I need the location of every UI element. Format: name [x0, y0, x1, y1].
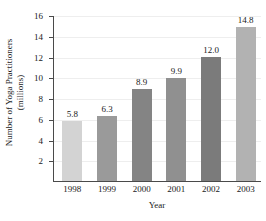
gridline — [54, 120, 261, 121]
bar: 14.8 — [236, 27, 256, 181]
bar: 12.0 — [201, 57, 221, 182]
y-axis-tick-label: 8 — [39, 94, 44, 104]
x-axis-tick-label: 2003 — [237, 184, 255, 194]
y-axis-tick — [49, 16, 53, 17]
y-axis-title-line2: (millions) — [15, 39, 26, 147]
bar-value-label: 12.0 — [203, 45, 219, 55]
y-axis-tick-label: 10 — [34, 73, 43, 83]
y-axis-tick-label: 4 — [39, 136, 44, 146]
gridline — [54, 37, 261, 38]
y-axis-tick-label: 16 — [34, 11, 43, 21]
y-axis-tick-label: 12 — [34, 53, 43, 63]
bar: 9.9 — [166, 78, 186, 181]
plot-area: 246810121416 5.86.38.99.912.014.8 199819… — [53, 16, 261, 182]
gridline — [54, 99, 261, 100]
y-axis-tick — [49, 120, 53, 121]
y-axis-tick — [49, 58, 53, 59]
gridline — [54, 161, 261, 162]
bar: 6.3 — [97, 116, 117, 181]
y-axis-title-line1: Number of Yoga Practitioners — [5, 39, 16, 147]
x-axis-tick-label: 2001 — [167, 184, 185, 194]
y-axis-tick-label: 6 — [39, 115, 44, 125]
gridline — [54, 78, 261, 79]
x-axis-line — [53, 181, 261, 182]
y-axis-title: Number of Yoga Practitioners (millions) — [0, 0, 30, 185]
y-axis-tick — [49, 37, 53, 38]
gridline — [54, 141, 261, 142]
bar-chart-figure: Number of Yoga Practitioners (millions) … — [0, 0, 266, 221]
bar-value-label: 14.8 — [238, 15, 254, 25]
x-axis-tick-label: 1998 — [63, 184, 81, 194]
y-axis-tick-label: 2 — [39, 156, 44, 166]
gridline — [54, 16, 261, 17]
y-axis-tick — [49, 78, 53, 79]
x-axis-tick-label: 2002 — [202, 184, 220, 194]
bar: 5.8 — [62, 121, 82, 181]
y-axis-tick — [49, 99, 53, 100]
y-axis-tick — [49, 161, 53, 162]
y-axis-tick-label: 14 — [34, 32, 43, 42]
bar-value-label: 5.8 — [67, 109, 78, 119]
y-axis-tick — [49, 141, 53, 142]
x-axis-tick-label: 2000 — [133, 184, 151, 194]
x-axis-tick-label: 1999 — [98, 184, 116, 194]
bar: 8.9 — [132, 89, 152, 181]
bar-value-label: 9.9 — [171, 66, 182, 76]
x-axis-title: Year — [53, 200, 261, 210]
bar-value-label: 6.3 — [101, 104, 112, 114]
gridline — [54, 58, 261, 59]
bar-value-label: 8.9 — [136, 77, 147, 87]
